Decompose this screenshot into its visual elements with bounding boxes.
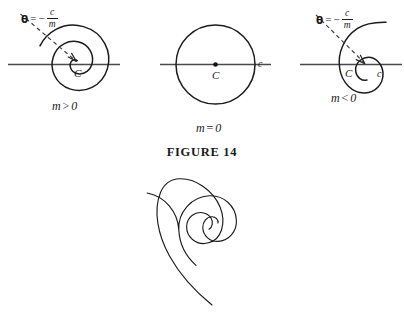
panel-left-condition-symbol: m: [52, 99, 61, 113]
panel-right-spiral: [339, 22, 386, 93]
figure-caption: FIGURE 14: [0, 145, 404, 160]
panel-right-condition-symbol: m: [331, 91, 340, 105]
panel-middle-center-label: C: [212, 70, 219, 81]
panel-right-theta-equation: θ = − c m: [316, 9, 353, 31]
panel-middle-condition-symbol: m: [196, 121, 205, 135]
figure-drawing-canvas: [0, 0, 404, 321]
panel-right-condition: m<0: [331, 92, 357, 104]
panel-left-condition: m>0: [52, 100, 78, 112]
panel-right-radius-label: c: [377, 69, 381, 79]
panel-middle-center-dot: [213, 62, 218, 67]
panel-left-theta-equation: θ = − c m: [21, 8, 58, 30]
bottom-spiral-path: [147, 193, 236, 265]
panel-middle-graphic: [160, 25, 271, 104]
fraction-c-over-m-right: c m: [342, 9, 353, 31]
theta-symbol-right: θ: [316, 15, 323, 26]
panel-middle-condition: m=0: [196, 122, 222, 134]
panel-left-condition-operator: >: [61, 99, 71, 113]
panel-right-center-label: C: [345, 68, 352, 79]
panel-middle-condition-operator: =: [205, 121, 215, 135]
fraction-denominator-left: m: [47, 19, 58, 29]
panel-right-condition-operator: <: [340, 91, 350, 105]
minus-sign-left: −: [38, 13, 44, 24]
figure-root: θ = − c m C m>0 C c m=0 θ = − c m C c m<…: [0, 0, 404, 321]
panel-left-condition-value: 0: [71, 99, 77, 113]
fraction-numerator-left: c: [48, 8, 56, 18]
panel-middle-radius-label: c: [258, 59, 262, 69]
panel-right-condition-value: 0: [350, 91, 356, 105]
fraction-c-over-m-left: c m: [47, 8, 58, 30]
panel-left-center-label: C: [74, 68, 81, 79]
fraction-denominator-right: m: [342, 20, 353, 30]
equals-sign-right: =: [325, 14, 331, 25]
minus-sign-right: −: [333, 14, 339, 25]
fraction-numerator-right: c: [343, 9, 351, 19]
theta-symbol-left: θ: [21, 14, 28, 25]
bottom-logarithmic-spiral-graphic: [147, 179, 236, 305]
equals-sign-left: =: [30, 13, 36, 24]
panel-middle-condition-value: 0: [215, 121, 221, 135]
bottom-spiral-outer-sweep: [157, 179, 223, 305]
